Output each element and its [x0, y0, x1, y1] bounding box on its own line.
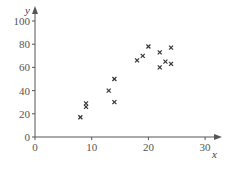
- y-tick-label: 60: [19, 61, 31, 73]
- y-tick-label: 40: [19, 85, 31, 97]
- x-tick-label: 0: [32, 141, 38, 153]
- x-marker-icon: [141, 54, 145, 58]
- scatter-chart: 0102030020406080100 x y: [0, 0, 233, 171]
- x-marker-icon: [107, 89, 111, 93]
- x-marker-icon: [169, 46, 173, 50]
- x-axis-arrow-icon: [214, 134, 222, 140]
- x-tick-label: 30: [200, 141, 212, 153]
- x-tick-label: 10: [86, 141, 98, 153]
- x-marker-icon: [135, 58, 139, 62]
- x-marker-icon: [158, 50, 162, 54]
- x-marker-icon: [84, 101, 88, 105]
- x-marker-icon: [158, 65, 162, 69]
- y-tick-label: 100: [14, 15, 31, 27]
- y-tick-label: 0: [25, 131, 31, 143]
- x-marker-icon: [112, 77, 116, 81]
- x-axis-label: x: [211, 148, 217, 160]
- axes: [32, 6, 222, 140]
- x-marker-icon: [163, 60, 167, 64]
- data-points: [78, 45, 173, 120]
- y-tick-label: 20: [19, 108, 31, 120]
- y-tick-label: 80: [19, 38, 31, 50]
- x-tick-label: 20: [143, 141, 155, 153]
- x-marker-icon: [169, 62, 173, 66]
- ticks: 0102030020406080100: [14, 15, 212, 153]
- y-axis-arrow-icon: [32, 6, 38, 14]
- x-marker-icon: [146, 45, 150, 49]
- y-axis-label: y: [24, 4, 30, 16]
- x-marker-icon: [112, 100, 116, 104]
- x-marker-icon: [78, 115, 82, 119]
